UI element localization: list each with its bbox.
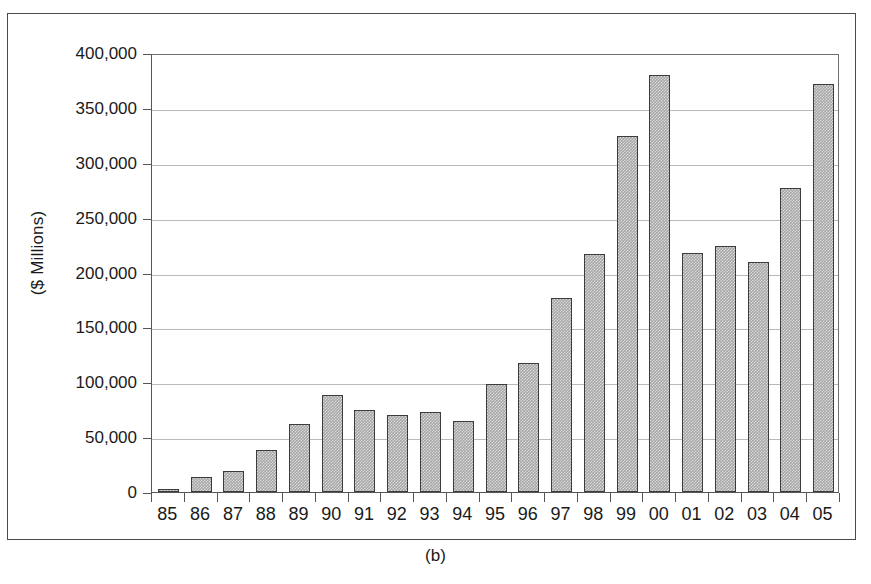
bar	[158, 489, 179, 492]
x-axis-tick-label: 90	[315, 503, 348, 525]
plot-area	[151, 54, 839, 493]
bar	[518, 363, 539, 493]
gridline	[152, 165, 838, 166]
x-axis-tick	[511, 493, 512, 502]
x-axis-tick-label: 92	[380, 503, 413, 525]
x-axis-tick	[708, 493, 709, 502]
x-axis-tick-label: 01	[675, 503, 708, 525]
bar	[223, 471, 244, 492]
y-axis-tick-label: 350,000	[37, 100, 137, 117]
x-axis-tick	[675, 493, 676, 502]
x-axis-tick	[249, 493, 250, 502]
x-axis-tick-label: 94	[446, 503, 479, 525]
x-axis-tick	[610, 493, 611, 502]
x-axis-tick	[282, 493, 283, 502]
bar	[551, 298, 572, 492]
y-axis-tick-label: 150,000	[37, 319, 137, 336]
x-axis-tick	[741, 493, 742, 502]
x-axis-tick-label: 05	[806, 503, 839, 525]
bar	[322, 395, 343, 492]
bar	[191, 477, 212, 492]
bar	[617, 136, 638, 492]
bar	[780, 188, 801, 492]
bar	[256, 450, 277, 492]
x-axis-tick	[380, 493, 381, 502]
bar	[486, 384, 507, 492]
x-axis-tick	[217, 493, 218, 502]
x-axis-tick-label: 04	[773, 503, 806, 525]
x-axis-tick	[184, 493, 185, 502]
x-axis-tick-label: 85	[151, 503, 184, 525]
x-axis-tick	[773, 493, 774, 502]
x-axis-tick-label: 93	[413, 503, 446, 525]
x-axis-tick-labels: 8586878889909192939495969798990001020304…	[151, 503, 839, 531]
x-axis-tick-label: 03	[741, 503, 774, 525]
x-axis-tick	[544, 493, 545, 502]
bar	[715, 246, 736, 492]
gridline	[152, 110, 838, 111]
x-axis-tick	[413, 493, 414, 502]
bar	[649, 75, 670, 492]
bar	[387, 415, 408, 492]
x-axis-tick-label: 88	[249, 503, 282, 525]
y-axis-tick-label: 50,000	[37, 429, 137, 446]
x-axis-tick-label: 02	[708, 503, 741, 525]
x-axis-tick-label: 99	[610, 503, 643, 525]
y-axis-tick-label: 0	[37, 484, 137, 501]
x-axis-tick	[151, 493, 152, 502]
x-axis-tick	[806, 493, 807, 502]
x-axis-tick-label: 00	[642, 503, 675, 525]
y-axis-tick-label: 100,000	[37, 374, 137, 391]
y-axis-tick-label: 200,000	[37, 265, 137, 282]
figure-panel: ($ Millions) 050,000100,000150,000200,00…	[0, 0, 871, 584]
bar	[748, 262, 769, 492]
x-axis-tick	[642, 493, 643, 502]
y-axis-tick-label: 300,000	[37, 155, 137, 172]
x-axis-tick	[348, 493, 349, 502]
bar	[420, 412, 441, 492]
x-axis-tick-label: 86	[184, 503, 217, 525]
x-axis-tick	[479, 493, 480, 502]
y-axis-tick-label: 400,000	[37, 45, 137, 62]
x-axis-tick-marks	[151, 493, 839, 502]
x-axis-tick	[839, 493, 840, 502]
x-axis-tick	[446, 493, 447, 502]
bar	[584, 254, 605, 492]
figure-caption: (b)	[0, 546, 871, 566]
bar	[354, 410, 375, 492]
x-axis-tick-label: 87	[217, 503, 250, 525]
bar	[682, 253, 703, 492]
x-axis-tick-label: 89	[282, 503, 315, 525]
x-axis-tick-label: 96	[511, 503, 544, 525]
x-axis-tick-label: 98	[577, 503, 610, 525]
y-axis-tick-label: 250,000	[37, 210, 137, 227]
x-axis-tick	[315, 493, 316, 502]
y-axis-tick-labels: 050,000100,000150,000200,000250,000300,0…	[33, 54, 137, 493]
x-axis-tick-label: 97	[544, 503, 577, 525]
bar	[813, 84, 834, 492]
x-axis-tick	[577, 493, 578, 502]
bar	[453, 421, 474, 492]
bar	[289, 424, 310, 492]
x-axis-tick-label: 91	[348, 503, 381, 525]
x-axis-tick-label: 95	[479, 503, 512, 525]
gridline	[152, 220, 838, 221]
